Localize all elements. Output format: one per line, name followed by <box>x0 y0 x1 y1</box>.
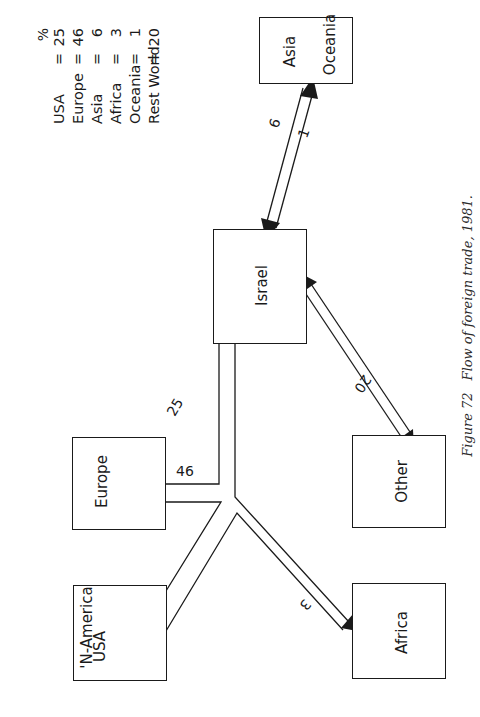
legend-value: 20 <box>145 28 164 52</box>
node-asia-label: Asia <box>283 27 298 77</box>
legend-row: USA = 25 <box>50 14 69 124</box>
legend-row: Oceania = 1 <box>126 14 145 124</box>
europe-usa-edge <box>166 502 221 591</box>
legend-eq: = <box>107 52 126 66</box>
node-n-america: 'N-America USA <box>73 585 167 681</box>
trunk-right-africa-edge <box>235 343 349 622</box>
legend-unit: % <box>34 28 50 124</box>
node-asia-oceania: Asia Oceania <box>259 17 353 84</box>
figure-caption: Figure 72Flow of foreign trade, 1981. <box>459 176 477 476</box>
legend-eq: = <box>88 52 107 66</box>
legend-name: Asia <box>88 66 107 124</box>
legend-name: Rest World <box>145 66 164 124</box>
trade-flow-diagram: Asia Oceania Israel Europe 'N-America US… <box>0 0 480 717</box>
legend-name: USA <box>50 66 69 124</box>
legend-eq: = <box>69 52 88 66</box>
legend-value: 46 <box>69 28 88 52</box>
node-israel-label: Israel <box>255 256 270 316</box>
node-europe: Europe <box>72 437 166 530</box>
legend-value: 3 <box>107 28 126 52</box>
node-other: Other <box>352 435 446 528</box>
legend-name: Africa <box>107 66 126 124</box>
node-israel: Israel <box>213 229 307 344</box>
legend-row: Rest World = 20 <box>145 14 164 124</box>
node-africa: Africa <box>352 583 446 679</box>
node-africa-label: Africa <box>395 603 410 663</box>
legend-eq: = <box>50 52 69 66</box>
figure-number: Figure 72 <box>460 392 475 456</box>
node-europe-label: Europe <box>95 447 110 517</box>
legend-row: Asia = 6 <box>88 14 107 124</box>
legend-name: Europe <box>69 66 88 124</box>
usa-africa-inner-edge <box>166 513 343 631</box>
node-usa-label: USA <box>93 627 108 667</box>
legend-row: Africa = 3 <box>107 14 126 124</box>
legend-eq: = <box>126 52 145 66</box>
flow-label-europe: 46 <box>176 464 194 478</box>
legend-value: 1 <box>126 28 145 52</box>
legend-table: % USA = 25 Europe = 46 Asia = 6 Africa =… <box>34 14 164 124</box>
figure-caption-text: Flow of foreign trade, 1981. <box>460 195 475 380</box>
legend-row: Europe = 46 <box>69 14 88 124</box>
node-other-label: Other <box>395 452 410 512</box>
node-oceania-label: Oceania <box>323 12 338 78</box>
legend-value: 25 <box>50 28 69 52</box>
legend: % USA = 25 Europe = 46 Asia = 6 Africa =… <box>10 40 170 140</box>
legend-name: Oceania <box>126 66 145 124</box>
legend-value: 6 <box>88 28 107 52</box>
legend-eq: = <box>145 52 164 66</box>
